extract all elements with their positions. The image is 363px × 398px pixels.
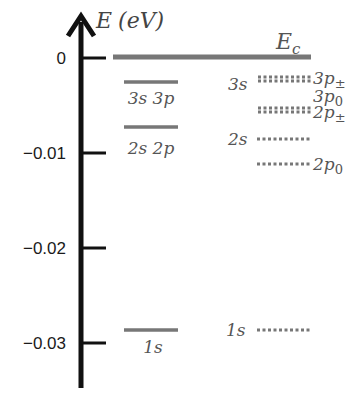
dotted-levels [257,77,312,330]
level-label-2s2p: 2s 2p [127,138,175,158]
level-label-1s: 1s [143,337,163,357]
energy-level-diagram: 0 −0.01 −0.02 −0.03 E(eV) Ec 3s 3p 2s 2p… [0,0,363,398]
tick-label-minus-0.03: −0.03 [23,334,66,353]
axis-title: E(eV) [95,8,164,33]
conduction-band-label: Ec [275,29,301,58]
level-label-3s3p: 3s 3p [128,88,175,108]
tick-label-minus-0.02: −0.02 [23,239,66,258]
tick-label-0: 0 [57,49,66,68]
label-3s: 3s [228,74,248,94]
tick-label-minus-0.01: −0.01 [23,144,66,163]
label-2s: 2s [227,129,248,149]
label-1s: 1s [226,320,246,340]
label-2p-0: 2p0 [312,154,343,177]
